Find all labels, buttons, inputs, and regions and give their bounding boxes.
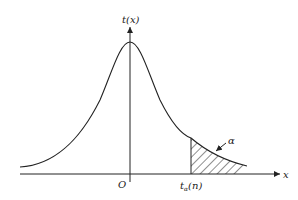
critical-value-suffix: (n) [188,180,202,191]
tail-area-label: α [228,135,235,146]
y-axis-label: t(x) [122,14,140,25]
alpha-pointer-arrow [216,143,226,151]
origin-label: O [118,179,126,190]
critical-value-label: tα(n) [180,180,202,192]
x-axis-label: x [283,169,289,180]
density-curve [20,42,247,167]
t-distribution-diagram: t(x) x O α tα(n) [0,0,298,200]
